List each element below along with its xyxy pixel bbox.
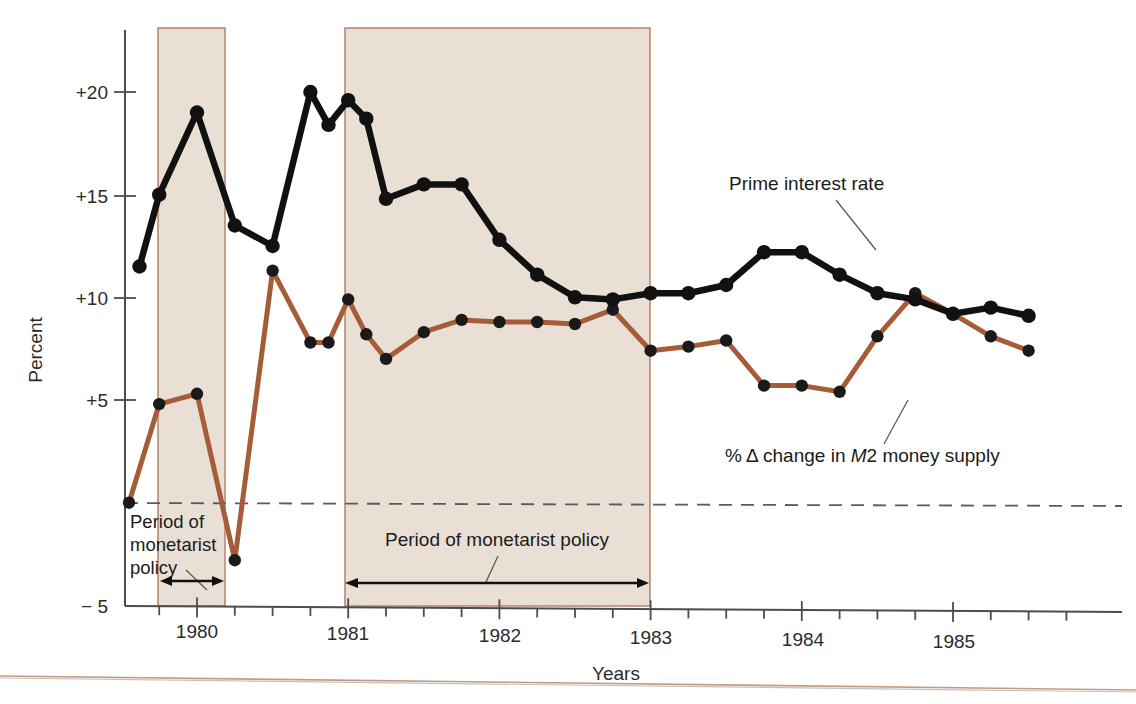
data-point: [418, 326, 430, 338]
x-tick-label-1980: 1980: [176, 621, 218, 642]
data-point: [265, 239, 279, 253]
y-tick-label-20: +20: [76, 82, 108, 103]
data-point: [493, 316, 505, 328]
data-point: [341, 93, 355, 107]
data-point: [719, 278, 733, 292]
y-tick-label-minus-5: − 5: [81, 596, 108, 617]
x-axis-title: Years: [592, 663, 640, 684]
data-point: [643, 286, 657, 300]
data-point: [191, 388, 203, 400]
data-point: [796, 379, 808, 391]
footer-rule-gray: [0, 678, 1136, 692]
data-point: [379, 192, 393, 206]
x-tick-label-1982: 1982: [479, 625, 521, 646]
data-point: [380, 353, 392, 365]
data-point: [303, 85, 317, 99]
data-point: [322, 336, 334, 348]
m2-label-italic-m: M: [851, 445, 867, 466]
data-point: [153, 398, 165, 410]
x-tick-label-1983: 1983: [630, 627, 672, 648]
data-point: [757, 245, 771, 259]
m2-series-label: % Δ change in M2 money supply: [725, 445, 1000, 466]
footer-rule-brown: [0, 676, 1136, 690]
data-point: [984, 300, 998, 314]
data-point: [531, 316, 543, 328]
data-point: [228, 218, 242, 232]
data-point: [682, 340, 694, 352]
y-axis-title: Percent: [25, 317, 46, 383]
data-point: [190, 105, 204, 119]
data-point: [417, 177, 431, 191]
data-point: [832, 268, 846, 282]
y-tick-label-5: +5: [86, 390, 108, 411]
m2-label-suffix: 2 money supply: [867, 445, 1001, 466]
data-point: [455, 314, 467, 326]
data-point: [606, 292, 620, 306]
data-point: [946, 307, 960, 321]
data-point: [908, 292, 922, 306]
x-tick-label-1984: 1984: [782, 629, 825, 650]
data-point: [132, 259, 146, 273]
y-tick-label-10: +10: [76, 288, 108, 309]
prime-series-label: Prime interest rate: [729, 173, 884, 194]
data-point: [870, 286, 884, 300]
data-point: [1021, 309, 1035, 323]
band2-label: Period of monetarist policy: [385, 529, 609, 550]
data-point: [681, 286, 695, 300]
data-point: [569, 318, 581, 330]
data-point: [304, 336, 316, 348]
data-point: [342, 293, 354, 305]
data-point: [644, 345, 656, 357]
data-point: [568, 290, 582, 304]
x-tick-label-1985: 1985: [933, 631, 975, 652]
data-point: [152, 188, 166, 202]
data-point: [985, 330, 997, 342]
x-tick-label-1981: 1981: [327, 623, 369, 644]
band1-label-line2: monetarist: [130, 534, 216, 555]
data-point: [123, 497, 135, 509]
data-point: [871, 330, 883, 342]
data-point: [360, 328, 372, 340]
band1-label-line1: Period of: [130, 511, 205, 532]
data-point: [720, 334, 732, 346]
chart-figure: +20 +15 +10 +5 − 5 Percent 1980 1981 198…: [0, 0, 1136, 704]
prime-leader-line: [836, 200, 876, 250]
data-point: [321, 118, 335, 132]
data-point: [454, 177, 468, 191]
x-axis: [125, 606, 1122, 612]
data-point: [758, 379, 770, 391]
data-point: [229, 554, 241, 566]
data-point: [266, 264, 278, 276]
data-point: [359, 112, 373, 126]
y-tick-label-15: +15: [76, 186, 108, 207]
data-point: [492, 233, 506, 247]
m2-leader-line: [884, 400, 908, 444]
data-point: [1022, 345, 1034, 357]
data-point: [530, 268, 544, 282]
data-point: [833, 386, 845, 398]
data-point: [795, 245, 809, 259]
m2-label-prefix: % Δ change in: [725, 445, 851, 466]
band1-label-line3: policy: [130, 557, 178, 578]
